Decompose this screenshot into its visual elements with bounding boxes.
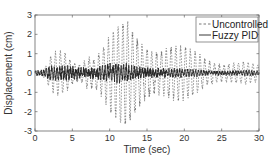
legend-label-fuzzy-pid: Fuzzy PID xyxy=(212,30,258,41)
legend-label-uncontrolled: Uncontrolled xyxy=(212,19,268,30)
x-tick-label: 10 xyxy=(105,133,115,143)
y-tick-label: -3 xyxy=(24,126,32,136)
y-tick-label: 2 xyxy=(27,29,32,39)
x-tick-label: 25 xyxy=(217,133,227,143)
y-tick-label: 0 xyxy=(27,68,32,78)
x-tick-label: 0 xyxy=(32,133,37,143)
y-tick-label: -1 xyxy=(24,87,32,97)
x-tick-label: 5 xyxy=(70,133,75,143)
x-tick-label: 20 xyxy=(179,133,189,143)
x-axis-label: Time (sec) xyxy=(124,144,171,155)
y-tick-label: 3 xyxy=(27,10,32,20)
y-tick-label: -2 xyxy=(24,107,32,117)
x-tick-label: 15 xyxy=(142,133,152,143)
series-fuzzy-pid-line xyxy=(35,63,259,83)
legend: Uncontrolled Fuzzy PID xyxy=(196,17,268,42)
displacement-chart: 051015202530 3210-1-2-3 Time (sec) Displ… xyxy=(0,0,274,157)
x-tick-label: 30 xyxy=(254,133,264,143)
y-axis-label: Displacement (cm) xyxy=(3,31,14,114)
y-tick-label: 1 xyxy=(27,49,32,59)
